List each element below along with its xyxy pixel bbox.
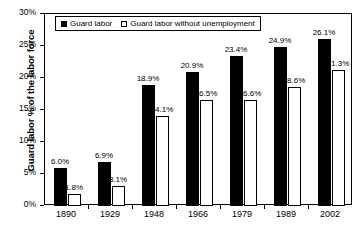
bar xyxy=(200,100,213,206)
x-axis-tick-label: 1948 xyxy=(132,209,176,219)
y-axis-tick-label: 0% xyxy=(24,199,36,209)
bar-value-label: 3.1% xyxy=(103,175,133,184)
y-axis-tick-label: 25% xyxy=(19,39,36,49)
y-axis-tick-label: 5% xyxy=(24,167,36,177)
plot-area: 6.0%1.8%6.9%3.1%18.9%14.1%20.9%16.5%23.4… xyxy=(44,13,352,205)
x-axis-tick-label: 1989 xyxy=(264,209,308,219)
bar-value-label: 24.9% xyxy=(265,36,295,45)
bar-value-label: 14.1% xyxy=(147,105,177,114)
bar-value-label: 18.6% xyxy=(279,76,309,85)
bar-value-label: 6.0% xyxy=(45,157,75,166)
bar xyxy=(274,47,287,206)
bar xyxy=(112,186,125,206)
bar-value-label: 18.9% xyxy=(133,74,163,83)
bar-value-label: 16.5% xyxy=(191,89,221,98)
y-axis-tick-label: 30% xyxy=(19,7,36,17)
bar-chart: Guard labor % of the labor force 0%5%10%… xyxy=(0,0,364,228)
legend-label: Guard labor xyxy=(70,19,112,28)
bar xyxy=(156,116,169,206)
legend-item: Guard labor xyxy=(61,19,112,28)
x-axis-tick-label: 1979 xyxy=(220,209,264,219)
bar xyxy=(244,100,257,206)
y-axis-tick-label: 15% xyxy=(19,103,36,113)
bar xyxy=(230,56,243,206)
bar-value-label: 16.6% xyxy=(235,89,265,98)
bar xyxy=(68,194,81,206)
bar xyxy=(332,70,345,206)
bar-value-label: 1.8% xyxy=(59,183,89,192)
x-axis-tick-label: 1929 xyxy=(88,209,132,219)
x-axis-tick-label: 1890 xyxy=(44,209,88,219)
y-axis-tick-label: 10% xyxy=(19,135,36,145)
y-axis-tick-mark xyxy=(40,205,44,206)
legend-swatch-icon xyxy=(121,21,127,27)
bar xyxy=(142,85,155,206)
y-axis-tick-label: 20% xyxy=(19,71,36,81)
bar xyxy=(288,87,301,206)
bar-value-label: 26.1% xyxy=(309,28,339,37)
x-axis-tick-label: 1966 xyxy=(176,209,220,219)
legend-swatch-icon xyxy=(61,21,67,27)
legend-item: Guard labor without unemployment xyxy=(121,19,255,28)
bar-value-label: 23.4% xyxy=(221,45,251,54)
x-axis-tick-label: 2002 xyxy=(308,209,352,219)
bar-value-label: 6.9% xyxy=(89,151,119,160)
bar-value-label: 20.9% xyxy=(177,61,207,70)
bar-value-label: 21.3% xyxy=(323,59,353,68)
chart-legend: Guard laborGuard labor without unemploym… xyxy=(55,16,261,31)
legend-label: Guard labor without unemployment xyxy=(130,19,255,28)
